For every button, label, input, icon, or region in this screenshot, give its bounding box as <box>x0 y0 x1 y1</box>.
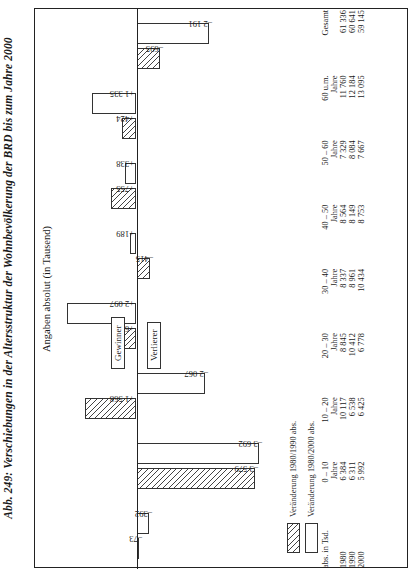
table-value: 7 329 <box>339 139 348 203</box>
table-value: 8 845 <box>339 332 348 396</box>
table-value: 11 760 <box>339 74 348 139</box>
table-value: 12 184 <box>348 74 357 139</box>
figure-root: Abb. 249: Verschiebungen in der Altersst… <box>0 0 416 576</box>
column-group-header: Gesamt <box>321 9 330 74</box>
table-value: 13 095 <box>357 74 366 139</box>
table-value: 10 412 <box>348 332 357 396</box>
row-year-label: 1980 <box>339 515 348 569</box>
column-unit-header: Jahre <box>330 461 339 515</box>
table-header-row: abs. in Tsd.0 – 1010 – 2020 – 3030 – 404… <box>321 9 330 569</box>
table-value: 6 384 <box>339 461 348 515</box>
column-group-header: 10 – 20 <box>321 396 330 460</box>
table-value: 8 084 <box>348 139 357 203</box>
column-group-header: 30 – 40 <box>321 268 330 332</box>
column-group-header: 0 – 10 <box>321 461 330 515</box>
table-value: 8 337 <box>339 268 348 332</box>
table-value: 6 425 <box>357 396 366 460</box>
column-group-header: 40 – 50 <box>321 204 330 268</box>
table-value: 5 992 <box>357 461 366 515</box>
column-unit-header: Jahre <box>330 268 339 332</box>
zero-baseline <box>137 9 138 569</box>
table-value: 60 641 <box>348 9 357 74</box>
column-unit-header <box>330 9 339 74</box>
table-corner-label: abs. in Tsd. <box>321 515 330 569</box>
table-row: 20005 9926 4256 77810 4348 7537 66713 09… <box>357 9 366 569</box>
table-value: 6 778 <box>357 332 366 396</box>
table-value: 6 538 <box>348 396 357 460</box>
table-value: 7 667 <box>357 139 366 203</box>
column-unit-header: Jahre <box>330 139 339 203</box>
table-value: 10 434 <box>357 268 366 332</box>
table-value: 10 117 <box>339 396 348 460</box>
table-value: 61 336 <box>339 9 348 74</box>
rotated-chart-stage: Angaben absolut (in Tausend) –73–392–3 5… <box>35 9 409 569</box>
column-unit-header: Jahre <box>330 396 339 460</box>
column-unit-header: Jahre <box>330 74 339 139</box>
data-table-wrap: abs. in Tsd.0 – 1010 – 2020 – 3030 – 404… <box>35 9 409 569</box>
table-value: 59 145 <box>357 9 366 74</box>
table-value: 8 149 <box>348 204 357 268</box>
table-value: 8 961 <box>348 268 357 332</box>
table-row: 19906 3116 53810 4128 9618 1498 08412 18… <box>348 9 357 569</box>
table-value: 8 564 <box>339 204 348 268</box>
figure-title: Abb. 249: Verschiebungen in der Altersst… <box>2 0 20 558</box>
table-row: 19806 38410 1178 8458 3378 5647 32911 76… <box>339 9 348 569</box>
chart-frame: Angaben absolut (in Tausend) –73–392–3 5… <box>34 8 408 568</box>
table-value: 8 753 <box>357 204 366 268</box>
column-group-header: 20 – 30 <box>321 332 330 396</box>
row-year-label: 2000 <box>357 515 366 569</box>
data-table: abs. in Tsd.0 – 1010 – 2020 – 3030 – 404… <box>321 9 366 569</box>
column-unit-header: Jahre <box>330 204 339 268</box>
column-group-header: 50 – 60 <box>321 139 330 203</box>
row-year-label: 1990 <box>348 515 357 569</box>
column-unit-header: Jahre <box>330 332 339 396</box>
column-group-header: 60 u.m. <box>321 74 330 139</box>
table-value: 6 311 <box>348 461 357 515</box>
table-unit-row: JahreJahreJahreJahreJahreJahreJahre <box>330 9 339 569</box>
table-unit-corner <box>330 515 339 569</box>
